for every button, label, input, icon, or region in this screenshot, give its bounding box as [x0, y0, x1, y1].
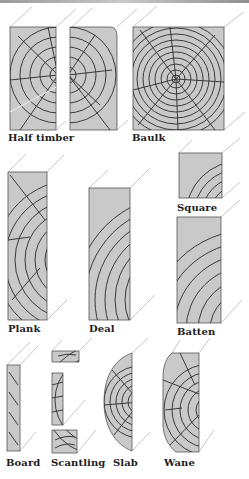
- scantling-blocks: [45, 345, 155, 455]
- label-square: Square: [177, 202, 217, 213]
- label-plank: Plank: [8, 323, 41, 334]
- label-half-timber: Half timber: [8, 132, 74, 143]
- board-block: [7, 365, 20, 451]
- label-board: Board: [6, 457, 40, 468]
- label-batten: Batten: [177, 326, 215, 337]
- label-wane: Wane: [164, 457, 195, 468]
- label-baulk: Baulk: [132, 132, 165, 143]
- label-deal: Deal: [89, 323, 115, 334]
- label-slab: Slab: [113, 457, 138, 468]
- deal-block: [75, 188, 249, 405]
- wane-block: [163, 353, 249, 456]
- timber-sections-illustration: [0, 0, 249, 479]
- baulk-block: [119, 22, 233, 136]
- plank-block: [0, 172, 155, 340]
- label-scantling: Scantling: [51, 457, 105, 468]
